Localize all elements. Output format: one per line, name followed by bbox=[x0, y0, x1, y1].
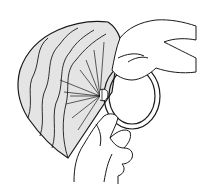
paper-fan-illustration bbox=[0, 0, 202, 189]
wrap-band bbox=[100, 89, 108, 101]
upper-hand bbox=[112, 20, 196, 80]
illustration bbox=[0, 0, 202, 189]
